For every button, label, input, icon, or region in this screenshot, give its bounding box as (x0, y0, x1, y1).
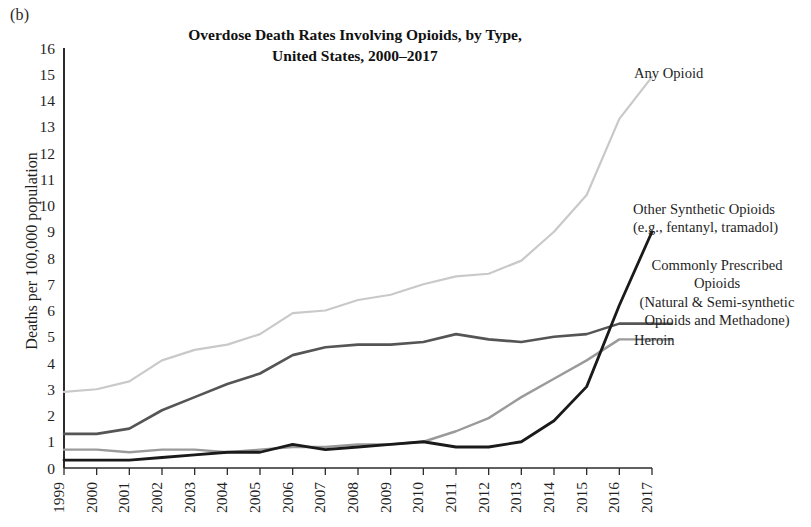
y-tick-label: 6 (47, 302, 55, 319)
x-tick-label: 2010 (409, 482, 426, 513)
x-tick-label: 2003 (181, 482, 198, 513)
x-tick-label: 2008 (344, 482, 361, 513)
series-group (64, 77, 672, 460)
y-tick-label: 14 (40, 92, 56, 109)
x-tick-group: 1999200020012002200320042005200620072008… (50, 468, 655, 513)
x-tick-label: 2012 (475, 482, 492, 513)
y-tick-label: 9 (47, 223, 55, 240)
x-tick-label: 2016 (605, 482, 622, 513)
x-tick-label: 2013 (507, 482, 524, 513)
y-tick-label: 8 (47, 250, 55, 267)
x-tick-label: 2000 (83, 482, 100, 513)
y-tick-label: 16 (40, 40, 56, 57)
x-tick-label: 2004 (213, 482, 230, 513)
y-tick-label: 10 (40, 197, 56, 214)
series-line (64, 232, 652, 460)
y-tick-label: 0 (47, 460, 55, 477)
y-tick-label: 1 (47, 433, 55, 450)
axes-group (64, 48, 652, 468)
y-tick-label: 12 (40, 145, 56, 162)
legend-label-heroin: Heroin (634, 331, 675, 349)
figure-container: (b) Overdose Death Rates Involving Opioi… (0, 0, 811, 527)
y-tick-label: 15 (40, 66, 56, 83)
legend-label-commonly-prescribed-opioids: Commonly Prescribed Opioids (Natural & S… (629, 256, 805, 330)
x-tick-label: 2006 (279, 482, 296, 513)
y-tick-label: 5 (47, 328, 55, 345)
y-tick-label: 11 (40, 171, 55, 188)
x-tick-label: 2005 (246, 482, 263, 513)
x-tick-label: 1999 (50, 482, 67, 513)
x-tick-label: 2014 (540, 482, 557, 513)
x-tick-label: 2009 (377, 482, 394, 513)
y-tick-label: 4 (47, 355, 55, 372)
y-tick-label: 2 (47, 407, 55, 424)
legend-label-other-synthetic-opioids: Other Synthetic Opioids (e.g., fentanyl,… (633, 200, 778, 237)
x-tick-label: 2017 (638, 482, 655, 513)
x-tick-label: 2001 (115, 482, 132, 513)
x-tick-label: 2002 (148, 482, 165, 513)
y-tick-label: 13 (40, 118, 56, 135)
series-line (64, 324, 652, 434)
legend-label-any-opioid: Any Opioid (634, 64, 703, 82)
x-tick-label: 2007 (311, 482, 328, 513)
series-line (64, 339, 652, 452)
y-tick-label: 3 (47, 381, 55, 398)
x-tick-label: 2011 (442, 482, 459, 512)
x-tick-label: 2015 (573, 482, 590, 513)
y-tick-label: 7 (47, 276, 55, 293)
y-tick-group: 012345678910111213141516 (40, 40, 56, 477)
